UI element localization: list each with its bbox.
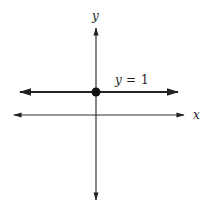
y-axis-label: y <box>91 9 99 23</box>
coordinate-plane: y x y = 1 <box>0 0 210 215</box>
intercept-point <box>92 88 101 97</box>
line-label-var: y <box>114 73 122 87</box>
line-label-equals: = <box>126 73 136 87</box>
graph-canvas: y x y = 1 <box>0 0 210 215</box>
x-axis-label: x <box>193 108 200 122</box>
line-label-value: 1 <box>141 73 149 87</box>
